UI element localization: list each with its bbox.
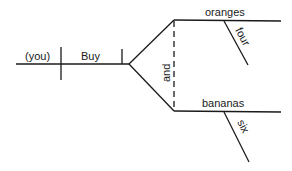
verb-label: Buy <box>81 50 100 62</box>
sentence-diagram: (you) Buy oranges bananas four six and <box>0 0 292 171</box>
subject-label: (you) <box>25 50 50 62</box>
object-line-bananas <box>174 111 281 112</box>
modifier-label-six: six <box>235 117 252 135</box>
object-label-oranges: oranges <box>205 6 245 18</box>
object-line-oranges <box>174 20 281 21</box>
conjunction-label: and <box>160 64 172 82</box>
fork-upper-arm <box>129 20 174 64</box>
object-label-bananas: bananas <box>202 97 245 109</box>
